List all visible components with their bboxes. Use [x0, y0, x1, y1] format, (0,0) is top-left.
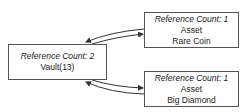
node-type: Asset — [145, 84, 238, 95]
arrow-vault-to-coin — [92, 34, 143, 44]
vault-node: Reference Count: 2 Vault(13) — [8, 44, 107, 80]
reference-count-label: Reference Count: 1 — [145, 73, 238, 84]
arrow-coin-to-vault — [86, 29, 144, 42]
node-name: Vault(13) — [9, 62, 106, 73]
node-name: Rare Coin — [145, 36, 238, 47]
rare-coin-node: Reference Count: 1 Asset Rare Coin — [144, 12, 239, 48]
big-diamond-node: Reference Count: 1 Asset Big Diamond — [144, 71, 239, 107]
reference-count-label: Reference Count: 2 — [9, 51, 106, 62]
reference-count-label: Reference Count: 1 — [145, 14, 238, 25]
node-type: Asset — [145, 25, 238, 36]
node-name: Big Diamond — [145, 95, 238, 106]
